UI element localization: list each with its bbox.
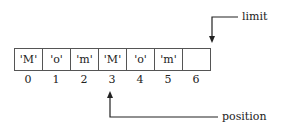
limit-label: limit: [242, 10, 267, 23]
limit-arrow-icon: [212, 17, 238, 38]
position-arrow-icon: [110, 96, 218, 117]
limit-arrowhead-icon: [209, 36, 215, 43]
position-arrowhead-icon: [107, 91, 113, 98]
position-label: position: [222, 110, 266, 123]
